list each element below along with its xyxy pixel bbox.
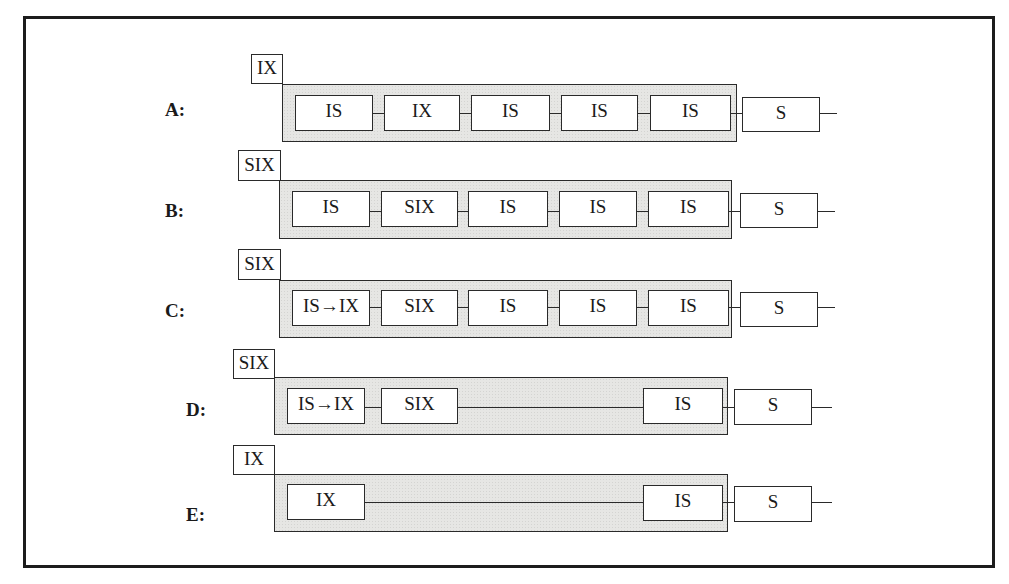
row-label-e: E: (186, 505, 205, 525)
row-label-b: B: (165, 201, 184, 221)
lock-node: IS (292, 191, 370, 227)
lock-node: IS (559, 191, 637, 227)
connector-line (729, 211, 740, 212)
row-label-a: A: (165, 100, 185, 120)
connector-line (458, 407, 643, 408)
lock-node: IS (471, 95, 550, 131)
parent-lock-tag: IX (251, 54, 283, 84)
lock-node: SIX (381, 290, 458, 326)
connector-line (548, 211, 559, 212)
connector-line (458, 211, 468, 212)
tail-line (812, 407, 832, 408)
connector-line (729, 307, 740, 308)
lock-node: IS (648, 191, 729, 227)
row-label-c: C: (165, 301, 185, 321)
connector-line (548, 307, 559, 308)
lock-node: IS (648, 290, 729, 326)
lock-node: IS→IX (292, 290, 370, 326)
outside-lock-node: S (740, 292, 818, 327)
lock-node: SIX (381, 191, 458, 227)
parent-lock-tag: SIX (238, 150, 281, 181)
lock-node: IS (468, 191, 548, 227)
lock-node: IS→IX (287, 388, 365, 424)
connector-line (723, 502, 734, 503)
connector-line (373, 113, 384, 114)
parent-lock-tag: IX (233, 445, 275, 475)
connector-line (638, 113, 650, 114)
connector-line (723, 407, 734, 408)
lock-node: IS (643, 388, 723, 424)
connector-line (637, 211, 648, 212)
lock-node: IS (468, 290, 548, 326)
connector-line (731, 113, 742, 114)
lock-node: SIX (381, 388, 458, 424)
connector-line (365, 502, 643, 503)
parent-lock-tag: SIX (238, 249, 281, 280)
connector-line (550, 113, 561, 114)
lock-node: IS (650, 95, 731, 131)
connector-line (370, 211, 381, 212)
parent-lock-tag: SIX (233, 349, 275, 379)
tail-line (820, 113, 837, 114)
tail-line (812, 502, 832, 503)
lock-node: IS (295, 95, 373, 131)
connector-line (637, 307, 648, 308)
connector-line (458, 307, 468, 308)
lock-node: IS (559, 290, 637, 326)
outside-lock-node: S (734, 486, 812, 522)
outside-lock-node: S (734, 389, 812, 425)
lock-node: IX (384, 95, 460, 131)
lock-node: IS (561, 95, 638, 131)
connector-line (460, 113, 471, 114)
outside-lock-node: S (740, 193, 818, 228)
lock-node: IX (287, 484, 365, 520)
tail-line (818, 307, 835, 308)
tail-line (818, 211, 835, 212)
lock-node: IS (643, 485, 723, 521)
row-label-d: D: (186, 400, 206, 420)
connector-line (370, 307, 381, 308)
connector-line (365, 407, 381, 408)
outside-lock-node: S (742, 97, 820, 132)
